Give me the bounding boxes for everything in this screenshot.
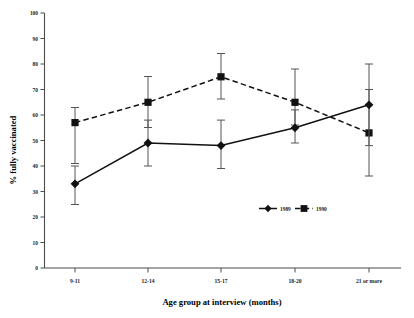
- x-axis-ticks: [75, 268, 369, 273]
- legend-diamond-marker: [264, 205, 271, 212]
- diamond-marker: [144, 139, 153, 148]
- y-tick-label: 60: [33, 112, 39, 118]
- legend-square-marker: [301, 205, 308, 212]
- y-tick-label: 40: [33, 163, 39, 169]
- y-tick-label: 70: [33, 87, 39, 93]
- legend-label-1989: 1989: [280, 206, 291, 212]
- y-tick-label: 30: [33, 189, 39, 195]
- y-axis-ticks: [41, 13, 45, 268]
- diamond-marker: [71, 179, 80, 188]
- chart-figure: 100 90 80 70 60 50 40 30 20 10 0 9-11 12…: [0, 0, 414, 318]
- y-tick-label: 90: [33, 36, 39, 42]
- x-tick-label: 18-20: [288, 278, 301, 284]
- x-axis-title: Age group at interview (months): [162, 297, 281, 307]
- legend-label-1990: 1990: [316, 206, 327, 212]
- series-1990: [71, 54, 373, 177]
- square-marker: [71, 119, 78, 126]
- x-tick-label: 15-17: [214, 278, 227, 284]
- series-1990-markers: [71, 73, 372, 136]
- line-chart-svg: 100 90 80 70 60 50 40 30 20 10 0 9-11 12…: [0, 0, 414, 318]
- y-tick-label: 0: [35, 265, 38, 271]
- series-1990-line: [75, 77, 369, 133]
- square-marker: [144, 99, 151, 106]
- axis-lines: [45, 13, 402, 268]
- diamond-marker: [365, 100, 374, 109]
- y-tick-label: 100: [30, 10, 38, 16]
- y-tick-label: 20: [33, 214, 39, 220]
- square-marker: [217, 73, 224, 80]
- error-bars-1990: [71, 54, 373, 177]
- y-tick-label: 10: [33, 240, 39, 246]
- x-tick-label: 12-14: [141, 278, 154, 284]
- y-tick-label: 50: [33, 138, 39, 144]
- y-axis-title: % fully vaccinated: [8, 115, 18, 184]
- square-marker: [291, 99, 298, 106]
- diamond-marker: [217, 141, 226, 150]
- series-1989-markers: [71, 100, 374, 188]
- chart-legend: 1989 1990: [259, 205, 327, 212]
- series-1989: [71, 64, 374, 205]
- y-axis-tick-labels: 100 90 80 70 60 50 40 30 20 10 0: [30, 10, 38, 271]
- y-tick-label: 80: [33, 61, 39, 67]
- x-axis-tick-labels: 9-11 12-14 15-17 18-20 21 or more: [70, 278, 382, 284]
- x-tick-label: 21 or more: [356, 278, 382, 284]
- error-bars-1989: [71, 64, 373, 205]
- x-tick-label: 9-11: [70, 278, 80, 284]
